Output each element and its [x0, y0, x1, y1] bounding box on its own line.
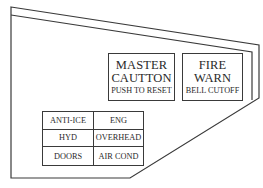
master-caution-line1: MASTER — [116, 59, 167, 72]
fire-warn-line2: WARN — [194, 72, 231, 85]
master-caution-button[interactable]: MASTER CAUTTON PUSH TO RESET — [108, 53, 175, 101]
annunciator-eng[interactable]: ENG — [94, 112, 143, 130]
master-caution-line2: CAUTTON — [111, 72, 171, 85]
annunciator-air-cond[interactable]: AIR COND — [94, 147, 143, 165]
annunciator-hyd[interactable]: HYD — [43, 130, 94, 148]
master-caution-sub: PUSH TO RESET — [111, 86, 172, 96]
annunciator-grid: ANTI-ICE ENG HYD OVERHEAD DOORS AIR COND — [42, 111, 144, 166]
annunciator-overhead[interactable]: OVERHEAD — [94, 130, 143, 148]
fire-warn-line1: FIRE — [199, 59, 227, 72]
fire-warn-sub: BELL CUTOFF — [186, 86, 239, 96]
annunciator-doors[interactable]: DOORS — [43, 147, 94, 165]
annunciator-anti-ice[interactable]: ANTI-ICE — [43, 112, 94, 130]
fire-warn-button[interactable]: FIRE WARN BELL CUTOFF — [182, 53, 243, 101]
